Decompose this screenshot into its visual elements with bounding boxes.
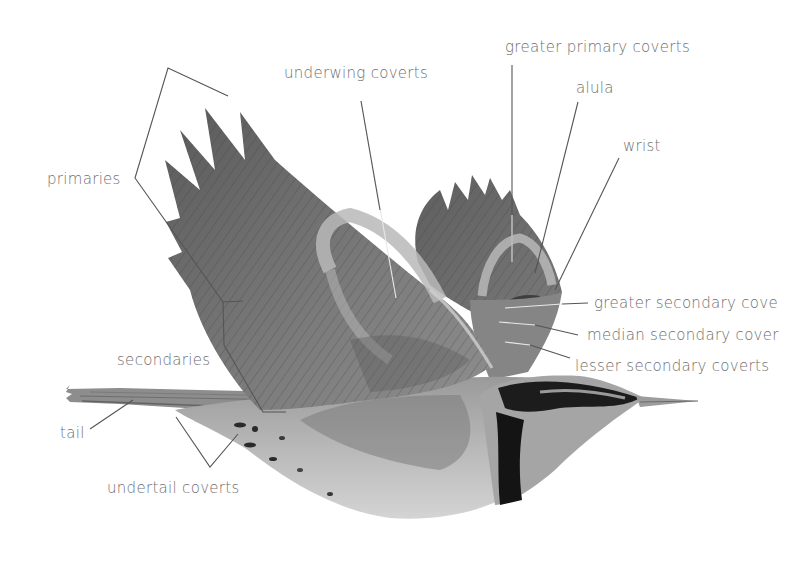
bird-anatomy-diagram: greater primary coverts alula wrist unde… (0, 0, 795, 562)
label-median-secondary-coverts: median secondary cover (587, 326, 779, 344)
label-greater-secondary-coverts: greater secondary cove (594, 294, 778, 312)
label-secondaries: secondaries (117, 351, 210, 369)
label-wrist: wrist (623, 137, 661, 155)
label-undertail-coverts: undertail coverts (107, 479, 240, 497)
label-greater-primary-coverts: greater primary coverts (505, 38, 690, 56)
right-edge-fade (781, 288, 795, 312)
bird-illustration (0, 0, 795, 562)
label-alula: alula (576, 79, 614, 97)
bird-head (480, 376, 698, 505)
label-primaries: primaries (47, 170, 121, 188)
label-underwing-coverts: underwing coverts (284, 64, 428, 82)
label-tail: tail (60, 424, 85, 442)
label-lesser-secondary-coverts: lesser secondary coverts (575, 357, 769, 375)
